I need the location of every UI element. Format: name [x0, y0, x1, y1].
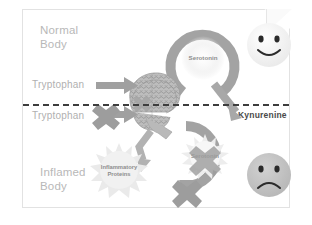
inflammatory-proteins-label-line2: Proteins — [107, 171, 130, 177]
inflammatory-proteins-label-line1: Inflammatory — [101, 164, 138, 170]
diagram-artwork: Serotonin Serotonin — [0, 0, 312, 225]
sad-face-icon — [247, 153, 291, 197]
serotonin-normal-label: Serotonin — [189, 54, 218, 61]
happy-face-icon — [247, 23, 291, 67]
body-divider — [23, 104, 289, 106]
diagram-canvas: Normal Body Inflamed Body Tryptophan Try… — [0, 0, 312, 225]
